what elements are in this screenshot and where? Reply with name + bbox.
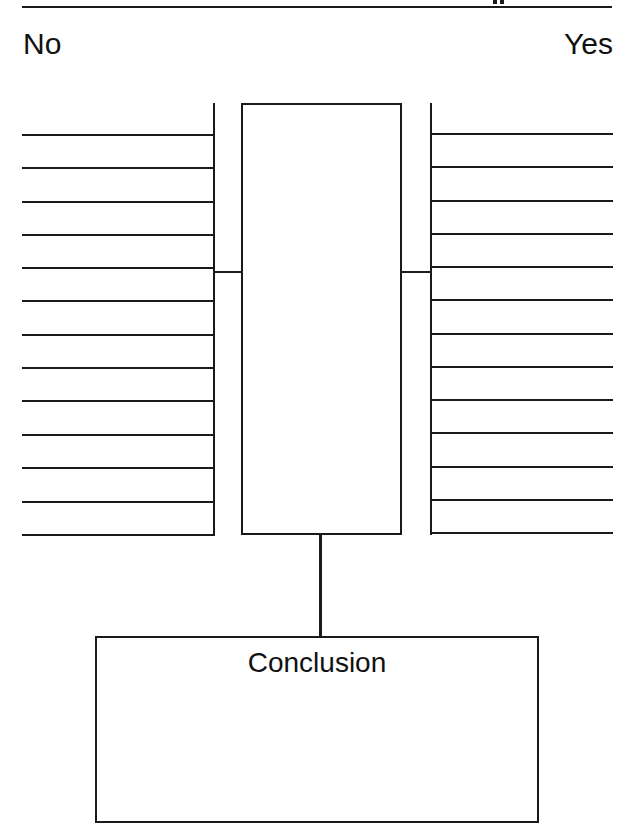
yes-answer-line-10[interactable] bbox=[430, 432, 613, 434]
cropped-header-text-fragment bbox=[500, 0, 504, 4]
no-label: No bbox=[23, 29, 61, 59]
yes-answer-line-11[interactable] bbox=[430, 466, 613, 468]
no-answer-line-10[interactable] bbox=[22, 434, 215, 436]
yes-answer-line-13[interactable] bbox=[430, 532, 613, 534]
question-box[interactable] bbox=[241, 103, 402, 535]
yes-answer-line-5[interactable] bbox=[430, 266, 613, 268]
no-answer-line-1[interactable] bbox=[22, 134, 215, 136]
yes-answer-line-8[interactable] bbox=[430, 366, 613, 368]
no-answer-line-13[interactable] bbox=[22, 534, 215, 536]
yes-answer-line-4[interactable] bbox=[430, 233, 613, 235]
no-answer-line-9[interactable] bbox=[22, 400, 215, 402]
no-answer-line-5[interactable] bbox=[22, 267, 215, 269]
yes-label: Yes bbox=[564, 29, 613, 59]
no-answer-line-8[interactable] bbox=[22, 367, 215, 369]
conclusion-connector bbox=[319, 534, 322, 638]
yes-answer-line-7[interactable] bbox=[430, 333, 613, 335]
yes-answer-line-12[interactable] bbox=[430, 499, 613, 501]
yes-answer-line-1[interactable] bbox=[430, 133, 613, 135]
cropped-header-text-fragment bbox=[493, 0, 497, 4]
top-rule bbox=[22, 6, 612, 8]
yes-answer-line-3[interactable] bbox=[430, 200, 613, 202]
no-connector bbox=[214, 271, 243, 273]
conclusion-title: Conclusion bbox=[97, 648, 537, 678]
no-answer-line-4[interactable] bbox=[22, 234, 215, 236]
yes-answer-line-2[interactable] bbox=[430, 166, 613, 168]
conclusion-box[interactable]: Conclusion bbox=[95, 636, 539, 823]
yes-answer-line-9[interactable] bbox=[430, 399, 613, 401]
no-answer-line-7[interactable] bbox=[22, 334, 215, 336]
no-answer-line-11[interactable] bbox=[22, 467, 215, 469]
no-answer-line-6[interactable] bbox=[22, 300, 215, 302]
yes-connector bbox=[401, 271, 431, 273]
yes-answer-line-6[interactable] bbox=[430, 299, 613, 301]
no-answer-line-3[interactable] bbox=[22, 201, 215, 203]
no-answer-line-12[interactable] bbox=[22, 501, 215, 503]
no-answer-line-2[interactable] bbox=[22, 167, 215, 169]
